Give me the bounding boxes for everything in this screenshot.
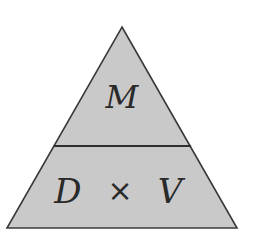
formula-triangle-diagram: M D × V — [0, 0, 256, 244]
multiply-operator: × — [107, 173, 132, 208]
triangle-svg: M D × V — [0, 0, 256, 244]
volume-label: V — [158, 171, 186, 211]
density-label: D — [53, 171, 81, 211]
mass-label: M — [105, 78, 140, 116]
